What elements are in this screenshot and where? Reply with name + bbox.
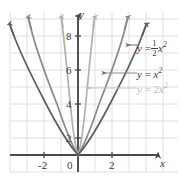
equation-op-two: = xyxy=(145,83,151,95)
y-tick-label-4: 4 xyxy=(66,99,72,110)
equation-label-x-squared: y = x2 xyxy=(137,67,162,80)
y-tick-label-2: 2 xyxy=(66,133,72,144)
equation-op-one: = xyxy=(145,68,151,80)
y-axis-label: y xyxy=(79,9,84,20)
y-tick-label-6: 6 xyxy=(66,65,72,76)
x-tick-label-minus-2: -2 xyxy=(38,160,47,171)
fraction-denominator: 2 xyxy=(151,49,157,58)
equation-label-2x-squared: y = 2x2 xyxy=(137,82,168,95)
x-tick-label-2: 2 xyxy=(109,160,115,171)
equation-op-half: = xyxy=(145,42,151,54)
equation-label-half-x-squared: y =12x2 xyxy=(137,39,167,58)
fraction-one-half: 12 xyxy=(151,39,157,58)
equation-exponent-two: 2 xyxy=(164,81,168,90)
parabola-family-figure: 8 6 4 2 -2 0 2 y x y =12x2 y = x2 y = 2x… xyxy=(0,0,182,179)
equation-exponent-one: 2 xyxy=(159,66,163,75)
y-tick-label-8: 8 xyxy=(66,31,72,42)
x-tick-label-origin: 0 xyxy=(67,160,73,171)
x-axis-label: x xyxy=(160,158,165,169)
equation-exponent-half: 2 xyxy=(163,40,167,49)
